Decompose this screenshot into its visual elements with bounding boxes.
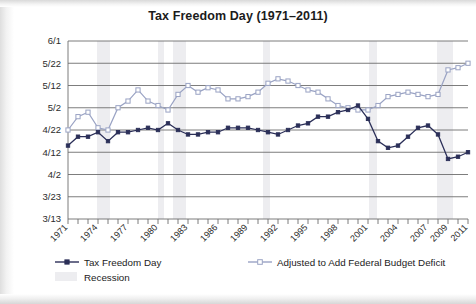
x-axis-tick-label: 1974 (78, 222, 99, 243)
x-axis-tick-label: 1986 (198, 222, 219, 243)
data-point-marker (396, 144, 399, 147)
data-point-marker (286, 79, 290, 83)
data-point-marker (266, 131, 269, 134)
data-point-marker (386, 95, 390, 99)
data-point-marker (306, 122, 309, 125)
data-point-marker (226, 126, 229, 129)
data-point-marker (446, 68, 450, 72)
y-axis-tick-label: 3/23 (43, 191, 62, 202)
data-point-marker (126, 131, 129, 134)
x-axis-tick-label: 1998 (318, 222, 339, 243)
data-point-marker (76, 135, 79, 138)
y-axis-tick-label: 5/12 (43, 80, 62, 91)
legend-label: Recession (84, 272, 130, 283)
data-point-marker (336, 111, 339, 114)
data-point-marker (206, 131, 209, 134)
data-point-marker (426, 95, 430, 99)
data-point-marker (86, 135, 89, 138)
data-point-marker (316, 115, 319, 118)
data-point-marker (146, 126, 149, 129)
data-point-marker (456, 155, 459, 158)
data-point-marker (366, 108, 370, 112)
y-axis-tick-label: 4/22 (43, 124, 62, 135)
x-axis-tick-label: 1983 (168, 222, 189, 243)
data-point-marker (296, 124, 299, 127)
data-point-marker (466, 61, 470, 65)
data-point-marker (86, 110, 90, 114)
legend-label: Adjusted to Add Federal Budget Deficit (277, 257, 446, 268)
x-axis-ticks (68, 219, 468, 224)
data-point-marker (96, 131, 99, 134)
legend-marker (258, 260, 263, 265)
data-point-marker (146, 99, 150, 103)
data-point-marker (236, 97, 240, 101)
x-axis-tick-labels: 1971197419771980198319861989199219951998… (48, 222, 469, 243)
data-point-marker (156, 103, 160, 107)
data-point-marker (466, 151, 469, 154)
data-point-marker (226, 97, 230, 101)
data-point-marker (416, 126, 419, 129)
data-point-marker (166, 122, 169, 125)
data-point-marker (436, 133, 439, 136)
data-point-marker (306, 88, 310, 92)
data-point-marker (366, 117, 369, 120)
data-point-marker (66, 144, 69, 147)
data-point-marker (236, 126, 239, 129)
legend-swatch-recession (55, 272, 77, 281)
data-point-marker (266, 81, 270, 85)
data-point-marker (116, 131, 119, 134)
chart-figure: Tax Freedom Day (1971–2011) 3/133/234/24… (0, 0, 476, 304)
data-point-marker (136, 88, 140, 92)
x-axis-tick-label: 1995 (288, 222, 309, 243)
x-axis-tick-label: 1971 (48, 222, 69, 243)
line-chart-plot: 3/133/234/24/124/225/25/125/226/1 197119… (0, 0, 476, 304)
y-axis-tick-label: 5/2 (48, 102, 61, 113)
data-point-marker (416, 92, 420, 96)
x-axis-tick-label: 2001 (348, 222, 369, 243)
data-point-marker (316, 90, 320, 94)
y-axis-tick-label: 5/22 (43, 58, 62, 69)
data-point-marker (446, 157, 449, 160)
data-point-marker (126, 99, 130, 103)
y-axis-tick-labels: 3/133/234/24/124/225/25/125/226/1 (43, 35, 62, 224)
legend-marker (65, 260, 69, 264)
y-axis-tick-label: 4/2 (48, 169, 61, 180)
legend-label: Tax Freedom Day (84, 257, 161, 268)
y-axis-tick-label: 4/12 (43, 147, 62, 158)
data-point-marker (276, 133, 279, 136)
data-point-marker (66, 128, 70, 132)
data-point-marker (76, 115, 80, 119)
x-axis-tick-label: 2004 (378, 222, 399, 243)
data-point-marker (96, 126, 100, 130)
data-point-marker (246, 95, 250, 99)
data-point-marker (276, 77, 280, 81)
data-point-marker (326, 115, 329, 118)
data-point-marker (326, 97, 330, 101)
data-point-marker (406, 90, 410, 94)
data-point-marker (356, 104, 359, 107)
data-point-marker (216, 88, 220, 92)
data-point-marker (106, 128, 110, 132)
data-point-marker (216, 131, 219, 134)
data-point-marker (386, 146, 389, 149)
data-point-marker (406, 135, 409, 138)
x-axis-tick-label: 1989 (228, 222, 249, 243)
data-point-marker (426, 124, 429, 127)
data-point-marker (376, 103, 380, 107)
chart-legend: Tax Freedom DayRecessionAdjusted to Add … (55, 257, 446, 283)
data-point-marker (396, 92, 400, 96)
data-point-marker (186, 83, 190, 87)
data-point-marker (206, 86, 210, 90)
data-point-marker (346, 108, 349, 111)
data-point-marker (156, 128, 159, 131)
data-point-marker (176, 128, 179, 131)
data-point-marker (336, 103, 340, 107)
data-point-marker (376, 139, 379, 142)
data-point-marker (106, 139, 109, 142)
data-point-marker (296, 83, 300, 87)
y-axis-tick-label: 3/13 (43, 213, 62, 224)
data-point-marker (186, 133, 189, 136)
data-point-marker (286, 128, 289, 131)
data-point-marker (246, 126, 249, 129)
data-point-marker (196, 90, 200, 94)
